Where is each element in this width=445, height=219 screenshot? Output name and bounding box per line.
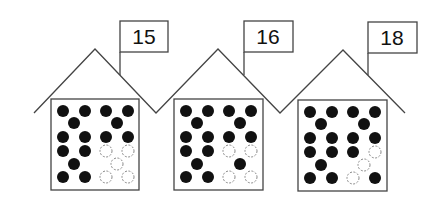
- empty-dot: [223, 171, 235, 183]
- filled-dot: [111, 117, 123, 129]
- filled-dot: [180, 131, 192, 143]
- filled-dot: [234, 117, 246, 129]
- empty-dot: [245, 145, 257, 157]
- filled-dot: [347, 106, 359, 118]
- flag-label-3: 18: [368, 22, 416, 53]
- filled-dot: [347, 132, 359, 144]
- filled-dot: [326, 146, 338, 158]
- filled-dot: [57, 145, 69, 157]
- filled-dot: [326, 172, 338, 184]
- filled-dot: [122, 131, 134, 143]
- filled-dot: [122, 105, 134, 117]
- empty-dot: [223, 145, 235, 157]
- filled-dot: [369, 132, 381, 144]
- filled-dot: [100, 105, 112, 117]
- filled-dot: [180, 145, 192, 157]
- filled-dot: [57, 105, 69, 117]
- filled-dot: [234, 158, 246, 170]
- filled-dot: [245, 131, 257, 143]
- filled-dot: [315, 159, 327, 171]
- filled-dot: [304, 172, 316, 184]
- filled-dot: [358, 118, 370, 130]
- filled-dot: [315, 118, 327, 130]
- filled-dot: [180, 171, 192, 183]
- filled-dot: [68, 158, 80, 170]
- filled-dot: [223, 105, 235, 117]
- flag-label-2: 16: [244, 21, 292, 52]
- empty-dot: [100, 171, 112, 183]
- filled-dot: [202, 105, 214, 117]
- filled-dot: [79, 171, 91, 183]
- filled-dot: [191, 158, 203, 170]
- empty-dot: [245, 171, 257, 183]
- filled-dot: [79, 105, 91, 117]
- filled-dot: [304, 132, 316, 144]
- filled-dot: [191, 117, 203, 129]
- empty-dot: [122, 145, 134, 157]
- filled-dot: [79, 131, 91, 143]
- filled-dot: [202, 131, 214, 143]
- filled-dot: [304, 106, 316, 118]
- filled-dot: [68, 117, 80, 129]
- filled-dot: [369, 172, 381, 184]
- filled-dot: [100, 131, 112, 143]
- filled-dot: [180, 105, 192, 117]
- empty-dot: [111, 158, 123, 170]
- empty-dot: [347, 172, 359, 184]
- empty-dot: [122, 171, 134, 183]
- filled-dot: [304, 146, 316, 158]
- empty-dot: [100, 145, 112, 157]
- filled-dot: [369, 106, 381, 118]
- filled-dot: [202, 171, 214, 183]
- filled-dot: [245, 105, 257, 117]
- filled-dot: [57, 171, 69, 183]
- empty-dot: [358, 159, 370, 171]
- flag-label-1: 15: [120, 21, 168, 52]
- filled-dot: [347, 146, 359, 158]
- filled-dot: [79, 145, 91, 157]
- filled-dot: [223, 131, 235, 143]
- empty-dot: [369, 146, 381, 158]
- filled-dot: [57, 131, 69, 143]
- filled-dot: [326, 132, 338, 144]
- filled-dot: [326, 106, 338, 118]
- filled-dot: [202, 145, 214, 157]
